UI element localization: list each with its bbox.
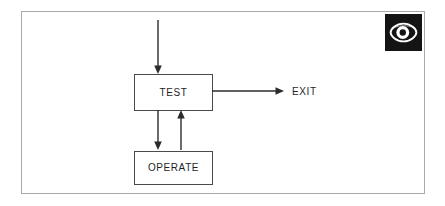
- flow-node-test-label: TEST: [160, 88, 188, 98]
- flow-label-exit: EXIT: [292, 87, 317, 97]
- eye-logo: [385, 14, 422, 51]
- figure-frame: TEST OPERATE EXIT: [21, 11, 425, 194]
- eye-icon: [389, 18, 418, 47]
- flow-node-test: TEST: [134, 74, 213, 111]
- flow-node-operate-label: OPERATE: [148, 163, 199, 173]
- figure-root: TEST OPERATE EXIT: [0, 0, 445, 206]
- flow-node-operate: OPERATE: [134, 151, 213, 185]
